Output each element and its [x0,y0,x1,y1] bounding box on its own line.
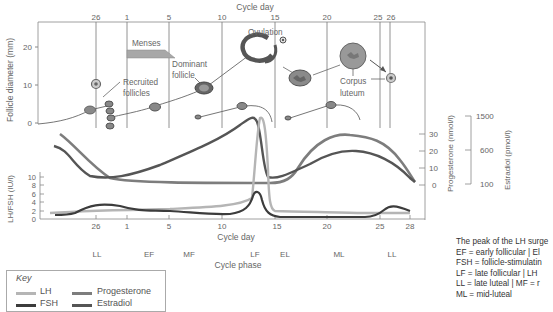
legend-progesterone-label: Progesterone [97,286,151,296]
estradiol-axis-bracket [465,116,471,184]
menses-bar [127,50,175,58]
note-line: LF = late follicular | LH [456,269,548,280]
svg-text:0: 0 [432,181,437,190]
progesterone-axis-ticks: 30 20 10 0 [429,130,438,190]
svg-text:20: 20 [323,13,332,22]
lhfsh-axis-ticks: 10 8 6 4 2 0 [28,173,36,224]
svg-text:10: 10 [429,164,438,173]
svg-text:LF: LF [250,250,259,259]
note-line: ML = mid-luteal [456,290,548,301]
note-line: EF = early follicular | El [456,248,548,259]
svg-text:EL: EL [280,250,290,259]
svg-text:MF: MF [183,250,195,259]
svg-text:26: 26 [92,13,101,22]
svg-text:Dominant: Dominant [172,60,208,69]
follicle-axis-label: Follicle diameter (mm) [5,38,15,122]
legend-estradiol-swatch [72,304,92,307]
svg-text:4: 4 [32,198,36,207]
svg-text:26: 26 [92,222,101,231]
note-line: LL = late luteal | MF = r [456,279,548,290]
follicle-axis-ticks: 20 10 0 [23,43,32,128]
progesterone-curve [60,134,415,183]
legend-estradiol-label: Estradiol [97,298,132,308]
svg-text:30: 30 [429,130,438,139]
svg-text:28: 28 [406,222,415,231]
svg-text:follicles: follicles [123,89,150,98]
svg-text:follicle: follicle [172,71,195,80]
svg-text:luteum: luteum [340,89,365,98]
legend-progesterone-swatch [72,292,92,295]
note-line: FSH = follicle-stimulatin [456,258,548,269]
svg-text:26: 26 [387,13,396,22]
svg-text:20: 20 [429,147,438,156]
svg-text:25: 25 [374,13,383,22]
svg-text:0: 0 [32,215,36,224]
legend-fsh-label: FSH [40,298,58,308]
svg-text:15: 15 [271,13,280,22]
svg-text:1: 1 [125,222,130,231]
top-axis-title: Cycle day [236,2,274,12]
legend-lh-label: LH [40,286,52,296]
svg-text:Recruited: Recruited [123,78,158,87]
svg-text:15: 15 [273,222,282,231]
phase-axis-title: Cycle phase [215,260,262,270]
svg-text:Menses: Menses [132,39,161,48]
svg-text:600: 600 [480,146,494,155]
svg-text:5: 5 [167,13,172,22]
bottom-axis-title: Cycle day [217,232,255,242]
legend-fsh-swatch [16,304,36,307]
note-line: The peak of the LH surge [456,237,548,248]
legend-key: Key LH FSH Progesterone Estradiol [6,270,166,312]
estradiol-axis-label: Estradiol (pmol/l) [503,130,512,190]
phase-labels: LL EF MF LF EL ML LL [93,250,397,259]
svg-text:1: 1 [125,13,130,22]
svg-text:ML: ML [333,250,345,259]
svg-text:20: 20 [23,43,32,52]
lhfsh-axis-label: LH/FSH (IU/l) [6,175,15,223]
svg-text:Ovulation: Ovulation [248,28,283,37]
svg-text:EF: EF [144,250,154,259]
svg-text:100: 100 [480,180,494,189]
svg-text:10: 10 [23,81,32,90]
svg-text:25: 25 [376,222,385,231]
svg-text:LL: LL [388,250,397,259]
svg-text:5: 5 [167,222,172,231]
svg-text:LL: LL [93,250,102,259]
progesterone-axis-label: Progesterone (nmol/l) [446,115,455,192]
estradiol-axis-ticks: 1500 600 100 [476,112,494,189]
legend-title: Key [16,273,32,283]
bottom-axis-ticks: 26 1 5 10 15 20 25 28 [92,222,415,231]
svg-text:8: 8 [32,181,36,190]
svg-text:20: 20 [323,222,332,231]
top-axis-ticks: 26 1 5 10 15 20 25 26 [92,13,396,22]
day-gridlines [96,22,390,128]
svg-text:Corpus: Corpus [340,77,366,86]
legend-lh-swatch [16,292,36,295]
svg-text:0: 0 [28,119,33,128]
svg-text:10: 10 [218,13,227,22]
svg-text:10: 10 [218,222,227,231]
abbreviation-notes: The peak of the LH surge EF = early foll… [456,237,548,300]
svg-text:1500: 1500 [476,112,494,121]
